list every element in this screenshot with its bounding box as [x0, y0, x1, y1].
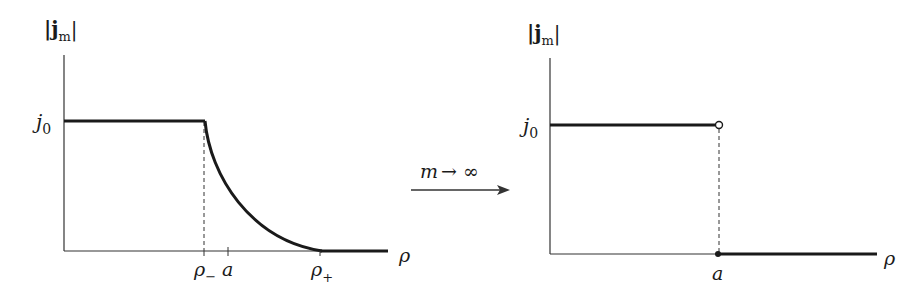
open-circle-marker — [716, 122, 723, 129]
filled-dot-marker — [715, 251, 721, 257]
left-j0-label: j0 — [32, 110, 51, 137]
arrow-label: m→ ∞ — [420, 160, 479, 182]
diagram-canvas: |jm| j0 ρ− a ρ+ ρ m→ ∞ |jm| j0 a ρ — [0, 0, 924, 300]
left-decay-curve — [205, 121, 322, 251]
left-tick-a-label: a — [222, 258, 233, 280]
left-x-axis-label: ρ — [398, 244, 411, 266]
right-tick-a-label: a — [712, 262, 723, 284]
limit-arrow: m→ ∞ — [411, 160, 510, 195]
figure: |jm| j0 ρ− a ρ+ ρ m→ ∞ |jm| j0 a ρ — [0, 0, 924, 300]
right-j0-label: j0 — [519, 114, 538, 141]
left-panel: |jm| j0 ρ− a ρ+ ρ — [32, 17, 411, 285]
right-panel: |jm| j0 a ρ — [519, 21, 896, 284]
left-tick-rho-minus-label: ρ− — [193, 258, 216, 284]
right-x-axis-label: ρ — [883, 247, 896, 269]
left-y-axis-label: |jm| — [44, 17, 78, 44]
left-tick-rho-plus-label: ρ+ — [310, 258, 333, 285]
right-y-axis-label: |jm| — [527, 21, 561, 48]
